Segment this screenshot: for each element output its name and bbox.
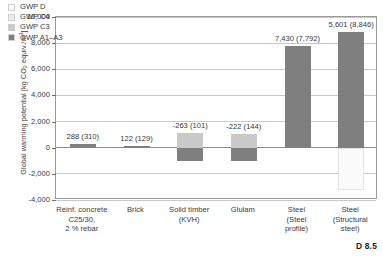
x-axis-category-line: steel) — [318, 224, 382, 234]
y-tick-label: 4,000 — [12, 92, 50, 100]
y-tick-label: -2,000 — [12, 170, 50, 178]
bar-segment — [285, 46, 311, 148]
bar-value-label: 122 (129) — [91, 135, 183, 143]
y-tick-mark — [52, 174, 56, 175]
y-tick-label: -4,000 — [12, 196, 50, 204]
bar-group[interactable] — [231, 17, 257, 198]
bar-value-label: 5,601 (8,846) — [305, 21, 383, 29]
legend-swatch-icon — [8, 4, 15, 11]
plot-area: 10,0008,0006,0004,0002,0000-2,000-4,0002… — [55, 16, 377, 199]
figure-caption: D 8.5 — [356, 241, 377, 251]
bar-group[interactable] — [70, 17, 96, 198]
y-tick-mark — [52, 69, 56, 70]
bar-segment — [338, 148, 364, 190]
gridline — [56, 200, 376, 201]
gridline — [56, 43, 376, 44]
legend-item[interactable]: GWP D — [8, 2, 63, 12]
x-axis-category-line: (Structural — [318, 215, 382, 225]
chart-legend: GWP DGWP C4GWP C3GWP A1–A3 — [8, 2, 63, 43]
x-axis-category-line: (KVH) — [157, 215, 221, 225]
legend-swatch-icon — [8, 14, 15, 21]
y-tick-mark — [52, 200, 56, 201]
bar-segment — [177, 133, 203, 147]
bar-group[interactable] — [124, 17, 150, 198]
legend-label: GWP C4 — [20, 12, 50, 22]
bar-segment — [338, 32, 364, 148]
y-tick-label: 6,000 — [12, 65, 50, 73]
bar-group[interactable] — [285, 17, 311, 198]
x-axis-labels: Reinf. concreteC25/30,2 % rebarBrickSoli… — [55, 203, 377, 245]
chart-root: Global warming potential [kg CO2 equiv./… — [0, 0, 383, 256]
bar-segment — [124, 146, 150, 148]
bar-value-label: 7,430 (7,792) — [252, 35, 344, 43]
y-tick-label: 0 — [12, 144, 50, 152]
x-axis-category-line: C25/30, — [50, 215, 114, 225]
legend-label: GWP A1–A3 — [20, 33, 63, 43]
legend-swatch-icon — [8, 34, 15, 41]
bar-segment — [231, 134, 257, 148]
bar-group[interactable] — [338, 17, 364, 198]
bar-value-label: -222 (144) — [198, 123, 290, 131]
bar-segment — [177, 148, 203, 162]
y-tick-label: 2,000 — [12, 118, 50, 126]
gridline — [56, 173, 376, 174]
y-tick-mark — [52, 95, 56, 96]
gridline — [56, 69, 376, 70]
gridline — [56, 17, 376, 18]
y-tick-mark — [52, 43, 56, 44]
bar-segment — [231, 148, 257, 161]
x-axis-category-line: 2 % rebar — [50, 224, 114, 234]
legend-item[interactable]: GWP C3 — [8, 22, 63, 32]
x-axis-category-line: Steel — [318, 205, 382, 215]
gridline — [56, 95, 376, 96]
zero-axis-line — [56, 147, 376, 148]
legend-swatch-icon — [8, 24, 15, 31]
bar-segment — [70, 144, 96, 148]
y-tick-mark — [52, 148, 56, 149]
bar-group[interactable] — [177, 17, 203, 198]
legend-item[interactable]: GWP A1–A3 — [8, 33, 63, 43]
legend-label: GWP D — [20, 2, 46, 12]
y-tick-mark — [52, 122, 56, 123]
legend-item[interactable]: GWP C4 — [8, 12, 63, 22]
x-axis-category-label: Steel(Structuralsteel) — [318, 205, 382, 234]
legend-label: GWP C3 — [20, 22, 50, 32]
